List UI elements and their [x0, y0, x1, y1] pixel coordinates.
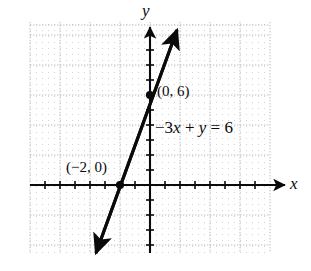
x-axis-label: x — [290, 175, 298, 192]
y-axis-label: y — [142, 2, 150, 19]
graph-figure: y x (0, 6) (−2, 0) −3x + y = 6 — [0, 0, 311, 271]
point-y-intercept — [146, 91, 154, 99]
equation-variable-x: x — [173, 118, 181, 137]
point-x-intercept — [116, 181, 124, 189]
equation-equals-sign: = — [211, 118, 221, 137]
equation-coefficient: −3 — [155, 118, 173, 137]
y-intercept-point-label: (0, 6) — [157, 84, 190, 99]
x-intercept-point-label: (−2, 0) — [66, 160, 107, 175]
equation-right-hand-side: 6 — [224, 118, 233, 137]
equation-annotation: −3x + y = 6 — [155, 119, 233, 136]
